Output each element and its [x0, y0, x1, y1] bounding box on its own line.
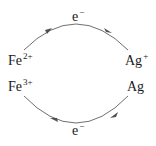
top-arc [24, 24, 128, 50]
electron-symbol: e [72, 9, 78, 24]
electron-charge: − [79, 7, 84, 17]
fe2-symbol: Fe [8, 53, 22, 68]
fe3-label: Fe3+ [8, 80, 33, 95]
fe3-symbol: Fe [8, 79, 22, 94]
bottom-arc [24, 96, 128, 123]
fe2-charge: 2+ [23, 51, 33, 61]
ag-plus-symbol: Ag [125, 53, 142, 68]
fe3-charge: 3+ [23, 77, 33, 87]
ag-label: Ag [127, 80, 144, 94]
electron-symbol: e [72, 123, 78, 138]
bottom-arc-arrow-left [50, 118, 58, 122]
electron-charge: − [79, 121, 84, 131]
ag-plus-charge: + [143, 51, 148, 61]
top-electron-label: e− [72, 10, 84, 25]
ag-plus-label: Ag+ [125, 54, 148, 69]
fe2-label: Fe2+ [8, 54, 33, 69]
bottom-arc-arrow-right [110, 112, 118, 118]
bottom-electron-label: e− [72, 124, 84, 139]
ag-symbol: Ag [127, 79, 144, 94]
